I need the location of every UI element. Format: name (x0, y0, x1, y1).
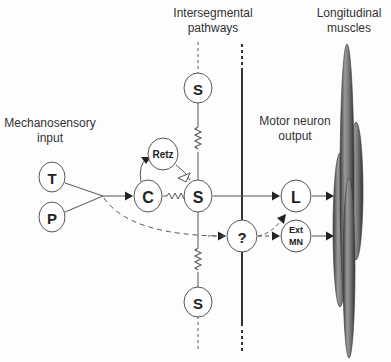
node-l: L (281, 180, 311, 212)
node-label: S (193, 295, 203, 312)
synapse-arrow (277, 214, 286, 224)
motor-to-muscle (312, 192, 334, 241)
node-label: L (291, 189, 301, 206)
node-p: P (39, 202, 65, 232)
node-retz: Retz (148, 138, 178, 170)
synapse-arrow (326, 192, 334, 201)
longitudinal-muscles (333, 44, 363, 358)
muscle-fiber (343, 178, 355, 358)
synapse-arrow-open (178, 173, 190, 182)
node-s-bottom: S (184, 287, 212, 317)
neural-circuit-diagram: Intersegmental pathways Longitudinal mus… (0, 0, 391, 362)
node-label: C (142, 189, 154, 206)
node-t: T (39, 162, 65, 192)
node-label: T (47, 170, 56, 187)
node-label: MN (289, 237, 303, 247)
synapse-arrow (125, 192, 133, 201)
node-label: Retz (152, 149, 173, 160)
node-label: S (193, 81, 203, 98)
node-label: S (193, 189, 204, 206)
synapse-arrow (272, 192, 280, 201)
diagram-svg: T P C Retz S S S ? (0, 0, 391, 362)
node-label: ? (237, 229, 246, 246)
node-label: P (47, 210, 57, 227)
node-s-mid: S (184, 180, 212, 212)
node-c: C (134, 180, 162, 212)
synapse-arrow (272, 232, 280, 241)
node-ext-mn: Ext MN (281, 220, 311, 252)
node-s-top: S (184, 73, 212, 103)
node-unknown: ? (227, 220, 257, 252)
node-label: Ext (289, 225, 303, 235)
s-to-l (213, 192, 280, 201)
